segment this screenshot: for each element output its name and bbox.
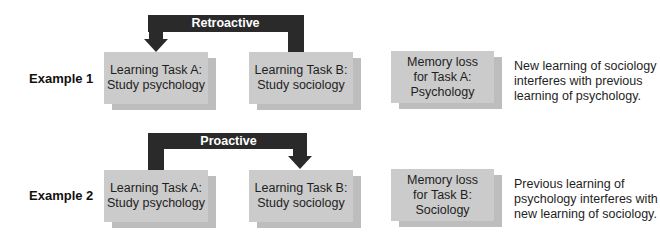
retroactive-label: Retroactive Interference (163, 15, 288, 47)
example-1-label: Example 1 (29, 71, 93, 86)
retroactive-left-shaft (149, 15, 163, 40)
proactive-right-shaft (293, 133, 307, 157)
proactive-left-riser (148, 133, 164, 170)
example-2-description: Previous learning of psychology interfer… (514, 177, 659, 222)
retroactive-right-riser (288, 15, 304, 52)
example-1-description: New learning of sociology interferes wit… (514, 59, 659, 104)
proactive-label: Proactive Interference (164, 133, 293, 165)
example-2-label: Example 2 (29, 188, 93, 203)
